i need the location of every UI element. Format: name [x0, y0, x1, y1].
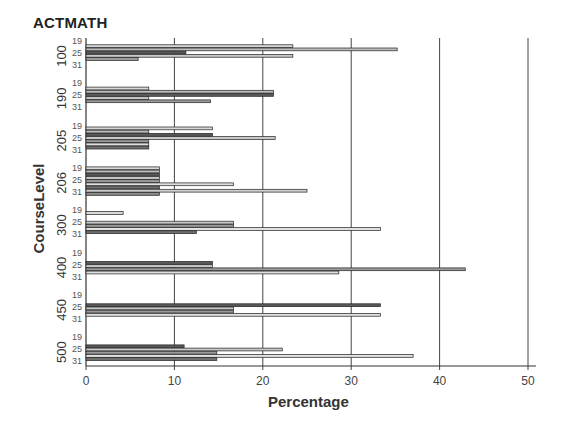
score-tick-label: 31 — [72, 356, 82, 366]
bar — [86, 167, 159, 170]
bar — [86, 313, 380, 316]
score-tick-label: 31 — [72, 314, 82, 324]
bar — [86, 265, 212, 268]
bar — [86, 58, 138, 61]
x-tick-label: 40 — [433, 374, 447, 388]
bar — [86, 358, 217, 361]
score-tick-label: 25 — [72, 48, 82, 58]
score-tick-label: 19 — [72, 78, 82, 88]
bar — [86, 351, 217, 354]
x-tick-label: 30 — [345, 374, 359, 388]
bar — [86, 90, 273, 93]
score-tick-label: 19 — [72, 332, 82, 342]
group-label: 500 — [54, 341, 69, 363]
score-tick-label: 31 — [72, 145, 82, 155]
score-tick-label: 25 — [72, 90, 82, 100]
group-label: 205 — [54, 130, 69, 152]
score-tick-label: 31 — [72, 102, 82, 112]
bar — [86, 137, 275, 140]
score-tick-label: 25 — [72, 302, 82, 312]
chart-plot: 0102030405010019253119019253120519253120… — [0, 0, 562, 435]
bar — [86, 94, 273, 97]
score-tick-label: 25 — [72, 175, 82, 185]
bar — [86, 140, 149, 143]
bar — [86, 221, 234, 224]
score-tick-label: 19 — [72, 248, 82, 258]
score-tick-label: 31 — [72, 272, 82, 282]
bar — [86, 189, 307, 192]
score-tick-label: 31 — [72, 229, 82, 239]
x-tick-label: 0 — [83, 374, 90, 388]
score-tick-label: 19 — [72, 36, 82, 46]
score-tick-label: 25 — [72, 217, 82, 227]
group-label: 206 — [54, 172, 69, 194]
bar — [86, 170, 159, 173]
bar — [86, 133, 212, 136]
score-tick-label: 19 — [72, 121, 82, 131]
group-label: 190 — [54, 87, 69, 109]
bar — [86, 183, 234, 186]
x-tick-label: 20 — [256, 374, 270, 388]
bar — [86, 231, 197, 234]
score-tick-label: 19 — [72, 205, 82, 215]
bar — [86, 355, 413, 358]
bar — [86, 177, 159, 180]
score-tick-label: 25 — [72, 133, 82, 143]
bar — [86, 345, 184, 348]
bar — [86, 180, 159, 183]
bar — [86, 262, 212, 265]
bar — [86, 228, 380, 231]
score-tick-label: 19 — [72, 290, 82, 300]
bar — [86, 54, 293, 57]
group-label: 450 — [54, 299, 69, 321]
x-tick-label: 50 — [521, 374, 535, 388]
y-axis-label: CourseLevel — [30, 159, 47, 259]
bar — [86, 100, 211, 103]
score-tick-label: 25 — [72, 260, 82, 270]
group-label: 400 — [54, 257, 69, 279]
score-tick-label: 19 — [72, 163, 82, 173]
bar — [86, 193, 159, 196]
bar — [86, 97, 149, 100]
bar — [86, 271, 339, 274]
bar — [86, 304, 380, 307]
x-tick-label: 10 — [168, 374, 182, 388]
bar — [86, 310, 234, 313]
bar — [86, 173, 159, 176]
x-axis-label: Percentage — [268, 393, 349, 410]
score-tick-label: 31 — [72, 60, 82, 70]
bar — [86, 127, 212, 130]
bar — [86, 146, 149, 149]
bar — [86, 212, 123, 215]
bar — [86, 51, 186, 54]
bar — [86, 224, 234, 227]
bar — [86, 307, 234, 310]
bar — [86, 186, 159, 189]
bar — [86, 268, 465, 271]
bar — [86, 87, 149, 90]
score-tick-label: 25 — [72, 344, 82, 354]
group-label: 300 — [54, 214, 69, 236]
bar — [86, 348, 282, 351]
bar — [86, 48, 397, 51]
bar — [86, 130, 149, 133]
score-tick-label: 31 — [72, 187, 82, 197]
group-label: 100 — [54, 45, 69, 67]
bar — [86, 143, 149, 146]
bar — [86, 45, 293, 48]
